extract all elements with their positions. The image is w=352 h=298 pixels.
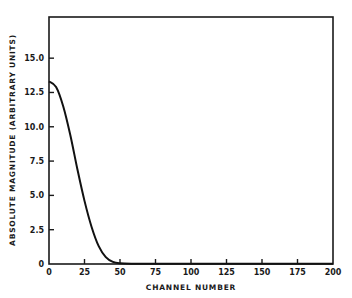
x-tick-label: 50 xyxy=(114,268,126,277)
x-tick-label: 0 xyxy=(46,268,52,277)
y-tick-label: 7.5 xyxy=(30,157,45,166)
x-tick-label: 175 xyxy=(289,268,306,277)
y-axis-title: ABSOLUTE MAGNITUDE (ARBITRARY UNITS) xyxy=(8,34,17,246)
y-tick-label: 0 xyxy=(38,260,44,269)
x-axis-title: CHANNEL NUMBER xyxy=(146,283,236,292)
x-tick-label: 100 xyxy=(183,268,200,277)
x-axis-ticks: 0255075100125150175200 xyxy=(46,259,342,277)
line-chart: 0255075100125150175200 02.55.07.510.012.… xyxy=(0,0,352,298)
y-tick-label: 2.5 xyxy=(30,226,45,235)
y-tick-label: 15.0 xyxy=(24,54,44,63)
y-tick-label: 5.0 xyxy=(30,191,45,200)
x-tick-label: 75 xyxy=(150,268,162,277)
data-line xyxy=(49,81,333,263)
x-tick-label: 125 xyxy=(218,268,235,277)
x-tick-label: 150 xyxy=(254,268,271,277)
x-tick-label: 25 xyxy=(79,268,91,277)
x-tick-label: 200 xyxy=(325,268,342,277)
y-tick-label: 10.0 xyxy=(24,123,44,132)
y-tick-label: 12.5 xyxy=(24,88,44,97)
